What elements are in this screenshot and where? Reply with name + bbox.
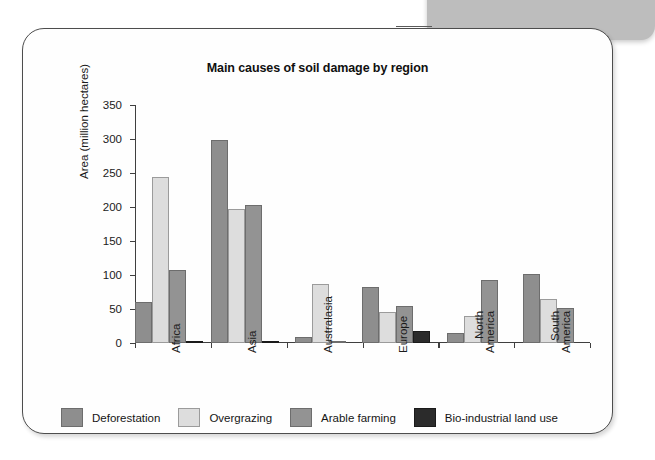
bar — [447, 333, 464, 343]
facing-page-edge-line — [396, 0, 432, 27]
legend-label: Deforestation — [92, 412, 160, 424]
bar-group — [362, 105, 430, 343]
y-tick-label: 350 — [103, 99, 122, 111]
bar — [295, 337, 312, 343]
x-category-label: Asia — [247, 331, 258, 353]
y-tick-label: 0 — [116, 337, 122, 349]
x-category-label: Australasia — [323, 296, 334, 353]
y-tick-label: 250 — [103, 167, 122, 179]
legend-label: Bio-industrial land use — [445, 412, 558, 424]
legend-label: Overgrazing — [209, 412, 272, 424]
legend-swatch-icon — [61, 408, 83, 427]
x-tick — [363, 343, 364, 348]
bar-group — [135, 105, 203, 343]
bar — [228, 209, 245, 343]
y-tick-label: 50 — [109, 303, 122, 315]
y-axis-title: Area (million hectares) — [78, 64, 90, 179]
y-tick-label: 300 — [103, 133, 122, 145]
chart-legend: DeforestationOvergrazingArable farmingBi… — [61, 408, 601, 427]
bar — [245, 205, 262, 343]
legend-item: Arable farming — [290, 408, 396, 427]
bar-group — [295, 105, 346, 343]
x-tick — [590, 343, 591, 348]
chart-title: Main causes of soil damage by region — [23, 61, 612, 75]
bar — [362, 287, 379, 343]
legend-item: Bio-industrial land use — [414, 408, 558, 427]
y-tick-label: 100 — [103, 269, 122, 281]
bar-group — [211, 105, 279, 343]
legend-swatch-icon — [178, 408, 200, 427]
bar — [523, 274, 540, 343]
bar — [262, 341, 279, 343]
legend-item: Overgrazing — [178, 408, 272, 427]
y-tick-label: 150 — [103, 235, 122, 247]
legend-item: Deforestation — [61, 408, 160, 427]
bar — [379, 312, 396, 343]
x-category-label: North America — [474, 311, 496, 353]
bar — [413, 331, 430, 343]
x-category-label: South America — [550, 311, 572, 353]
x-category-label: Africa — [171, 324, 182, 353]
x-tick — [514, 343, 515, 348]
plot-area: 050100150200250300350 AfricaAsiaAustrala… — [135, 105, 590, 343]
x-tick — [287, 343, 288, 348]
y-tick-label: 200 — [103, 201, 122, 213]
legend-swatch-icon — [290, 408, 312, 427]
bar — [152, 177, 169, 343]
x-category-label: Europe — [398, 316, 409, 353]
bar — [135, 302, 152, 343]
bar — [186, 341, 203, 343]
bar-group — [447, 105, 498, 343]
bar-group — [523, 105, 574, 343]
bar — [211, 140, 228, 343]
figure-frame: Main causes of soil damage by region Are… — [22, 28, 613, 434]
x-tick — [135, 343, 136, 348]
x-tick — [211, 343, 212, 348]
legend-swatch-icon — [414, 408, 436, 427]
x-tick — [438, 343, 439, 348]
legend-label: Arable farming — [321, 412, 396, 424]
